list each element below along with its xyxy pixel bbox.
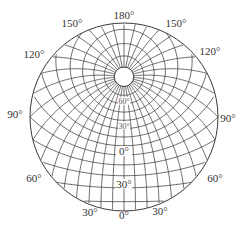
edge-label-lon-150-right: 150° bbox=[166, 17, 187, 29]
meridian-line bbox=[134, 75, 214, 93]
meridian-line bbox=[52, 82, 116, 176]
edge-label-lon-90-right: 90° bbox=[220, 112, 235, 124]
meridian-line bbox=[33, 79, 115, 140]
edge-label-lon-150-left: 150° bbox=[62, 17, 83, 29]
edge-label-lon-120-left: 120° bbox=[24, 48, 45, 60]
latitude-label-lat-30s: 30° bbox=[116, 178, 131, 190]
meridian-line bbox=[132, 45, 184, 71]
polar-cap-circle bbox=[114, 67, 133, 86]
edge-label-lon-60-right: 60° bbox=[207, 172, 222, 184]
latitude-label-lat-30n: 30° bbox=[118, 122, 129, 131]
meridian-line bbox=[132, 82, 196, 176]
edge-label-lon-0: 0° bbox=[119, 209, 129, 221]
meridian-line bbox=[42, 69, 115, 74]
meridian-line bbox=[133, 79, 215, 140]
edge-label-lon-180: 180° bbox=[114, 9, 135, 21]
meridian-line bbox=[133, 69, 206, 74]
latitude-label-lat-0: 0° bbox=[119, 145, 129, 157]
labels: 180°150°150°120°120°90°90°60°60°30°30°0°… bbox=[7, 9, 235, 221]
edge-label-lon-60-left: 60° bbox=[26, 172, 41, 184]
edge-label-lon-30-right: 30° bbox=[152, 205, 167, 217]
stereographic-net: 180°150°150°120°120°90°90°60°60°30°30°0°… bbox=[0, 0, 248, 237]
meridian-line bbox=[34, 75, 114, 93]
meridian-line bbox=[65, 45, 117, 71]
edge-label-lon-30-left: 30° bbox=[82, 206, 97, 218]
edge-label-lon-90-left: 90° bbox=[7, 108, 22, 120]
latitude-label-lat-60n: 60° bbox=[118, 97, 129, 106]
edge-label-lon-120-right: 120° bbox=[200, 45, 221, 57]
